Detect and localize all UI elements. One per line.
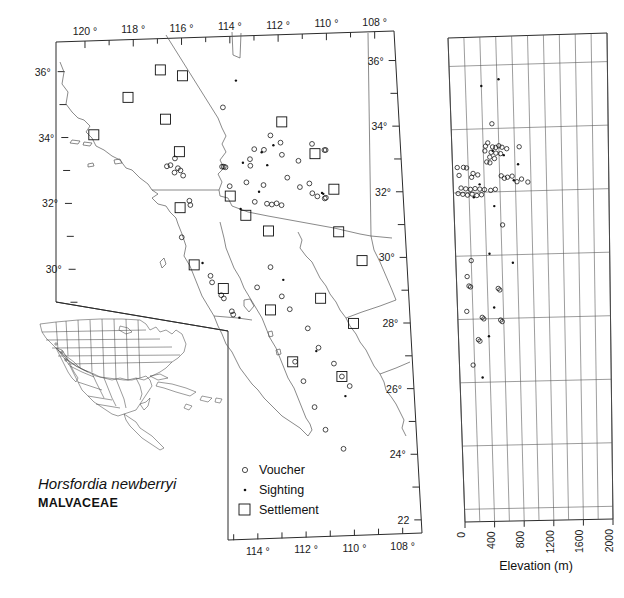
latitude-label-right: 30°: [379, 251, 395, 263]
elevation-voucher-point: [475, 193, 479, 197]
settlement-marker: [263, 226, 273, 236]
voucher-point: [310, 141, 315, 146]
map-legend: Voucher Sighting Settlement: [239, 463, 319, 517]
longitude-label-top: 108 °: [362, 16, 387, 28]
voucher-point: [312, 405, 317, 410]
elevation-voucher-point: [457, 173, 461, 177]
legend-label-voucher: Voucher: [259, 463, 305, 477]
voucher-point: [340, 374, 345, 379]
voucher-point: [252, 147, 257, 152]
voucher-point: [307, 181, 312, 186]
settlement-marker: [310, 149, 320, 159]
elevation-tick-labels: 0400800120016002000: [455, 529, 615, 554]
elevation-sighting-point: [473, 196, 475, 198]
voucher-point: [252, 199, 257, 204]
sighting-point: [201, 262, 203, 264]
map-frame: [56, 31, 422, 540]
voucher-point: [287, 307, 292, 312]
voucher-point: [332, 361, 337, 366]
elevation-voucher-point: [464, 187, 468, 191]
settlement-marker: [348, 318, 358, 328]
elevation-sighting-point: [488, 253, 490, 255]
voucher-point: [341, 446, 346, 451]
sighting-point: [344, 395, 346, 397]
bottom-longitude-labels: 114 °112 °110 °108 °: [246, 540, 415, 558]
latitude-label-right: 36°: [368, 55, 384, 67]
voucher-point: [310, 191, 315, 196]
voucher-point: [265, 201, 270, 206]
voucher-point: [305, 326, 310, 331]
elevation-sighting-point: [497, 78, 499, 80]
voucher-point: [210, 280, 215, 285]
inset-geography: [40, 319, 222, 450]
elevation-voucher-point: [479, 193, 483, 197]
longitude-label-top: 112 °: [266, 19, 290, 31]
voucher-point: [298, 185, 303, 190]
settlement-marker: [89, 130, 99, 140]
elevation-voucher-point: [519, 177, 523, 181]
elevation-voucher-point: [459, 186, 463, 190]
elevation-sighting-point: [481, 376, 483, 378]
longitude-label-bottom: 108 °: [390, 540, 415, 552]
elevation-vertical-gridline: [607, 33, 613, 519]
settlement-marker: [337, 371, 347, 381]
sighting-point: [260, 151, 262, 153]
latitude-label-left: 30°: [46, 263, 62, 275]
latitude-label-right: 24°: [390, 448, 406, 460]
elevation-sighting-point: [480, 85, 482, 87]
voucher-point: [285, 175, 290, 180]
voucher-point: [279, 152, 284, 157]
sighting-point: [272, 144, 274, 146]
sighting-point: [239, 208, 241, 210]
elevation-sighting-point: [493, 205, 495, 207]
elevation-voucher-point: [469, 175, 473, 179]
latitude-label-left: 32°: [42, 197, 58, 209]
latitude-label-right: 22: [398, 514, 410, 526]
sighting-point: [238, 316, 240, 318]
figure-root: 120 °118 °116 °114 °112 °110 °108 ° 114 …: [0, 0, 624, 598]
settlement-marker: [175, 203, 185, 213]
elevation-vertical-gridline: [559, 35, 568, 520]
elevation-sighting-point: [493, 306, 495, 308]
voucher-point: [278, 140, 283, 145]
elevation-sighting-point: [517, 163, 519, 165]
settlement-marker: [177, 71, 187, 81]
settlement-marker: [225, 191, 235, 201]
elevation-frame: [448, 33, 613, 522]
longitude-label-top: 116 °: [170, 22, 194, 34]
latitude-label-right: 28°: [382, 317, 398, 329]
elevation-voucher-point: [517, 145, 521, 149]
voucher-point: [268, 133, 273, 138]
elevation-sighting-point: [491, 150, 493, 152]
elevation-occurrence-symbols: [455, 78, 530, 379]
sighting-point: [235, 79, 237, 81]
elevation-tick-label: 0: [455, 532, 467, 538]
elevation-voucher-point: [476, 173, 480, 177]
voucher-point: [248, 163, 253, 168]
voucher-point: [227, 184, 232, 189]
longitude-label-top: 118 °: [121, 23, 145, 35]
voucher-point: [181, 173, 186, 178]
legend-label-settlement: Settlement: [259, 503, 319, 517]
sighting-point: [282, 279, 284, 281]
settlement-marker: [174, 147, 184, 157]
elevation-sighting-point: [512, 261, 514, 263]
settlement-marker: [161, 114, 171, 124]
settlement-marker: [329, 184, 339, 194]
elevation-voucher-point: [510, 174, 514, 178]
species-name: Horsfordia newberryi: [38, 475, 177, 492]
voucher-point: [255, 285, 260, 290]
elevation-vertical-gridline: [464, 38, 480, 522]
elevation-vertical-gridline: [480, 37, 495, 521]
settlement-marker: [357, 256, 367, 266]
sighting-point: [258, 191, 260, 193]
elevation-sighting-point: [503, 154, 505, 156]
voucher-point: [221, 296, 226, 301]
sighting-point: [266, 164, 268, 166]
top-longitude-labels: 120 °118 °116 °114 °112 °110 °108 °: [73, 16, 387, 37]
voucher-point: [269, 202, 274, 207]
elevation-voucher-point: [505, 147, 509, 151]
latitude-label-right: 34°: [371, 120, 387, 132]
voucher-point: [279, 203, 284, 208]
elevation-tick-label: 1200: [544, 530, 556, 554]
